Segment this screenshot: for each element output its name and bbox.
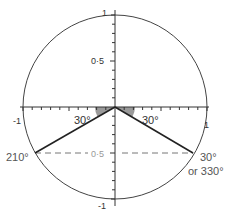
angle-label-right: 30°	[142, 114, 159, 126]
x-label-neg-1: -1	[13, 116, 21, 126]
point-label-330: or 330°	[188, 165, 224, 177]
point-label-210: 210°	[6, 151, 29, 163]
y-label-neg-0-5: 0·5	[91, 149, 104, 159]
y-label-1: 1	[102, 8, 107, 18]
x-label-1: 1	[204, 120, 209, 130]
angle-label-left: 30°	[74, 114, 91, 126]
point-label-30: 30°	[200, 151, 217, 163]
unit-circle-diagram: 1 0·5 -1 1 0·5 -1 30° 30° 210° 30° or 33…	[0, 0, 231, 216]
y-label-neg-1: -1	[98, 201, 106, 211]
y-label-0-5: 0·5	[91, 56, 104, 66]
